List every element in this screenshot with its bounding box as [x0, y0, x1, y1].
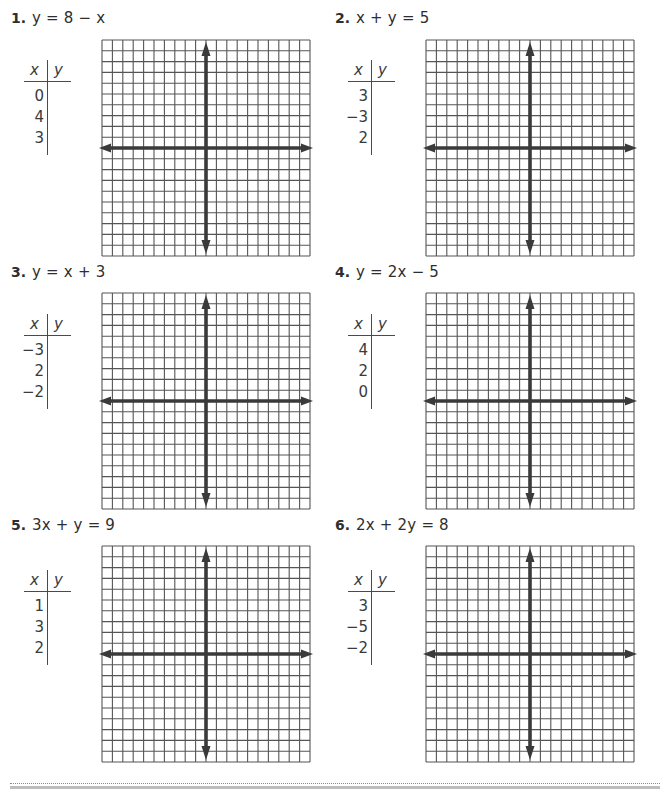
problem-4: 4.y = 2x − 5 x y 4 2 0 [324, 254, 654, 507]
problem-number: 5. [11, 517, 26, 533]
problem-number: 4. [335, 264, 350, 280]
equation: 3x + y = 9 [32, 516, 115, 534]
xy-table: x y 4 2 0 [348, 314, 396, 410]
y-column-header: y [54, 315, 63, 333]
x-value: 3 [34, 128, 44, 149]
xy-table: x y 1 3 2 [24, 570, 72, 666]
y-column-header: y [378, 315, 387, 333]
x-values: 1 3 2 [34, 596, 44, 659]
table-column-divider [371, 60, 372, 155]
coordinate-grid[interactable] [102, 546, 310, 762]
equation: y = x + 3 [32, 263, 105, 281]
x-value: 3 [34, 617, 44, 638]
xy-table: x y −3 2 −2 [24, 314, 72, 410]
x-value: 1 [34, 596, 44, 617]
x-value: 2 [34, 638, 44, 659]
grid-svg [102, 40, 310, 256]
grid-svg [426, 40, 634, 256]
x-value: 0 [358, 382, 368, 403]
grid-svg [426, 546, 634, 762]
grid-svg [102, 293, 310, 509]
x-values: −3 2 −2 [22, 340, 44, 403]
table-column-divider [371, 570, 372, 665]
equation: y = 2x − 5 [356, 263, 439, 281]
x-value: 2 [346, 128, 368, 149]
coordinate-grid[interactable] [426, 40, 634, 256]
coordinate-grid[interactable] [102, 40, 310, 256]
table-column-divider [47, 314, 48, 409]
x-value: 4 [358, 340, 368, 361]
xy-table: x y 0 4 3 [24, 60, 72, 156]
y-column-header: y [378, 571, 387, 589]
x-value: −5 [346, 617, 368, 638]
x-column-header: x [354, 571, 363, 589]
grid-svg [102, 546, 310, 762]
problem-number: 1. [11, 10, 26, 26]
problem-3: 3.y = x + 3 x y −3 2 −2 [0, 254, 330, 507]
x-value: −2 [346, 638, 368, 659]
x-column-header: x [30, 315, 39, 333]
problem-number: 2. [335, 10, 350, 26]
problem-title: 4.y = 2x − 5 [335, 262, 439, 282]
problem-title: 6.2x + 2y = 8 [335, 515, 449, 535]
problem-number: 6. [335, 517, 350, 533]
problem-number: 3. [11, 264, 26, 280]
x-value: 2 [22, 361, 44, 382]
x-values: 3 −3 2 [346, 86, 368, 149]
coordinate-grid[interactable] [102, 293, 310, 509]
problem-title: 3.y = x + 3 [11, 262, 105, 282]
xy-table: x y 3 −5 −2 [348, 570, 396, 666]
equation: y = 8 − x [32, 9, 105, 27]
x-value: 3 [346, 596, 368, 617]
footer-dotted-rule [10, 783, 660, 784]
table-column-divider [47, 570, 48, 665]
coordinate-grid[interactable] [426, 546, 634, 762]
x-value: 0 [34, 86, 44, 107]
x-value: 2 [358, 361, 368, 382]
problem-1: 1.y = 8 − x x y 0 4 3 [0, 0, 330, 253]
y-column-header: y [54, 571, 63, 589]
problem-title: 1.y = 8 − x [11, 8, 105, 28]
x-value: −2 [22, 382, 44, 403]
table-column-divider [371, 314, 372, 409]
x-column-header: x [30, 61, 39, 79]
table-column-divider [47, 60, 48, 155]
problem-6: 6.2x + 2y = 8 x y 3 −5 −2 [324, 507, 654, 760]
coordinate-grid[interactable] [426, 293, 634, 509]
footer-band [10, 786, 660, 789]
x-values: 3 −5 −2 [346, 596, 368, 659]
grid-svg [426, 293, 634, 509]
x-value: 4 [34, 107, 44, 128]
problem-2: 2.x + y = 5 x y 3 −3 2 [324, 0, 654, 253]
x-value: −3 [22, 340, 44, 361]
x-values: 4 2 0 [358, 340, 368, 403]
equation: 2x + 2y = 8 [356, 516, 449, 534]
problem-title: 2.x + y = 5 [335, 8, 429, 28]
x-column-header: x [354, 315, 363, 333]
x-values: 0 4 3 [34, 86, 44, 149]
x-value: 3 [346, 86, 368, 107]
xy-table: x y 3 −3 2 [348, 60, 396, 156]
y-column-header: y [54, 61, 63, 79]
equation: x + y = 5 [356, 9, 429, 27]
problem-title: 5.3x + y = 9 [11, 515, 115, 535]
problem-5: 5.3x + y = 9 x y 1 3 2 [0, 507, 330, 760]
x-column-header: x [30, 571, 39, 589]
x-value: −3 [346, 107, 368, 128]
x-column-header: x [354, 61, 363, 79]
y-column-header: y [378, 61, 387, 79]
